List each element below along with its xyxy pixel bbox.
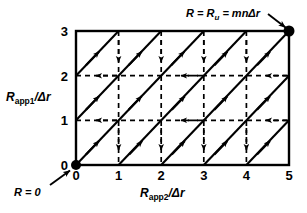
y-tick-1: 1 <box>61 113 68 128</box>
annotation-ru-part2: = mnΔr <box>219 7 260 19</box>
annotation-upper-right: R = Ru = mnΔr <box>186 7 286 28</box>
y-tick-0: 0 <box>61 158 68 173</box>
x-axis-title: Rapp2/Δr <box>140 186 186 202</box>
x-tick-5: 5 <box>285 168 292 183</box>
x-axis-ticks: 0 1 2 3 4 5 <box>72 168 292 183</box>
annotation-upper-right-leader <box>268 14 286 28</box>
x-tick-2: 2 <box>158 168 165 183</box>
y-axis-title-sub: app1 <box>15 96 35 106</box>
figure-root: 0 1 2 3 4 5 0 1 2 3 Rapp2/Δr Rapp1/Δr <box>0 0 307 213</box>
lattice-transition-diagram: 0 1 2 3 4 5 0 1 2 3 Rapp2/Δr Rapp1/Δr <box>0 0 307 213</box>
svg-text:R = Ru = mnΔr: R = Ru = mnΔr <box>186 7 261 22</box>
annotation-origin-text: R = 0 <box>14 186 41 198</box>
y-axis-ticks: 0 1 2 3 <box>61 24 68 173</box>
y-tick-2: 2 <box>61 69 68 84</box>
svg-text:Rapp1/Δr: Rapp1/Δr <box>6 90 52 106</box>
annotation-origin: R = 0 <box>14 171 70 199</box>
x-tick-4: 4 <box>243 168 251 183</box>
y-tick-3: 3 <box>61 24 68 39</box>
svg-text:Rapp2/Δr: Rapp2/Δr <box>140 186 186 202</box>
y-axis-title-main: R <box>6 90 15 104</box>
x-tick-0: 0 <box>72 168 79 183</box>
x-tick-3: 3 <box>200 168 207 183</box>
annotation-ru-part1: R = R <box>186 7 214 19</box>
y-axis-title: Rapp1/Δr <box>6 90 52 106</box>
x-axis-title-tail: /Δr <box>168 186 186 200</box>
x-tick-1: 1 <box>115 168 122 183</box>
x-axis-title-sub: app2 <box>149 192 169 202</box>
x-axis-title-main: R <box>140 186 149 200</box>
y-axis-title-tail: /Δr <box>34 90 52 104</box>
